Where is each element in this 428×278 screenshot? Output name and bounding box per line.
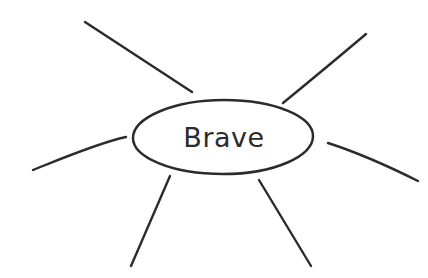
- mindmap-canvas: Brave: [0, 0, 428, 278]
- branch-lower-left-line: [131, 176, 170, 266]
- branch-lower-right-line: [259, 180, 311, 266]
- mindmap-drawing: Brave: [0, 0, 428, 278]
- center-node-label: Brave: [183, 122, 264, 153]
- branch-upper-left-line: [85, 22, 192, 92]
- branch-left-line: [33, 137, 126, 170]
- branch-right-line: [328, 143, 418, 181]
- branch-upper-right-line: [283, 34, 366, 103]
